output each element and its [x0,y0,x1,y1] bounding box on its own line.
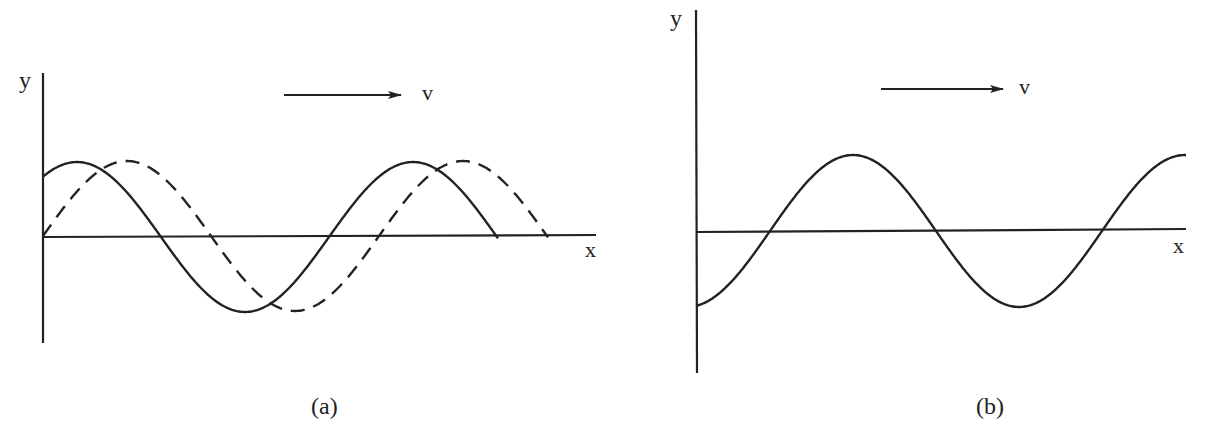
wave-figure: v y x (a) v y x (b) [0,0,1205,445]
y-axis-label: y [19,67,31,93]
y-axis-label: y [670,5,682,31]
panel-b: v y x (b) [670,5,1186,419]
x-axis [43,235,596,237]
panel-caption: (a) [311,393,338,419]
panel-caption: (b) [976,393,1004,419]
velocity-label: v [422,80,433,105]
panel-a: v y x (a) [19,67,596,419]
x-axis-label: x [585,237,596,262]
x-axis-label: x [1173,233,1184,258]
velocity-label: v [1019,74,1030,99]
y-axis [696,10,697,373]
